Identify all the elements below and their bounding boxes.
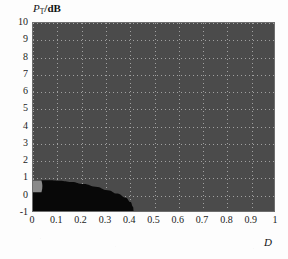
dark-region-shape bbox=[33, 180, 134, 211]
y-axis-tick-label: 8 bbox=[2, 52, 28, 62]
y-axis-tick-label: 4 bbox=[2, 121, 28, 131]
y-axis-label-unit: /dB bbox=[44, 2, 61, 14]
y-axis-tick-label: 2 bbox=[2, 155, 28, 165]
x-axis-label: D bbox=[264, 236, 272, 248]
plot-area bbox=[32, 22, 275, 212]
y-axis-label: PT/dB bbox=[33, 2, 61, 18]
notch-shape bbox=[33, 181, 42, 193]
y-axis-tick-label: 0 bbox=[2, 190, 28, 200]
y-axis-tick-label: 10 bbox=[2, 17, 28, 27]
y-axis-tick-label: 3 bbox=[2, 138, 28, 148]
region-shape-layer bbox=[33, 23, 274, 211]
y-axis-tick-label: 1 bbox=[2, 172, 28, 182]
y-axis-tick-label: 6 bbox=[2, 86, 28, 96]
figure-container: PT/dB 109876543210-1 00.10.20.30.40.50.6… bbox=[0, 0, 288, 259]
y-axis-tick-label: 7 bbox=[2, 69, 28, 79]
y-axis-label-symbol: P bbox=[33, 2, 40, 14]
y-axis-tick-label: 9 bbox=[2, 34, 28, 44]
x-axis-tick-label: 1 bbox=[260, 215, 288, 225]
y-axis-tick-label: 5 bbox=[2, 103, 28, 113]
